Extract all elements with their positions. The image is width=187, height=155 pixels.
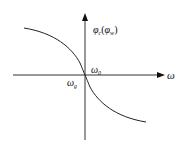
x-axis-label: ω: [167, 70, 175, 81]
omega-g-label: ωg: [67, 78, 77, 89]
y-axis-label: φc(φw): [93, 25, 117, 36]
omega-0-sub: 0: [98, 70, 101, 76]
y-label-paren-close: ): [114, 24, 117, 35]
omega-0-label: ω0: [91, 65, 101, 76]
omega-0-main: ω: [91, 64, 98, 75]
x-axis-arrow-icon: [157, 72, 165, 78]
phase-frequency-diagram: φc(φw) ω ω0 ωg: [0, 0, 187, 155]
y-axis-arrow-icon: [82, 13, 88, 21]
omega-g-main: ω: [67, 77, 74, 88]
omega-g-sub: g: [74, 83, 77, 89]
